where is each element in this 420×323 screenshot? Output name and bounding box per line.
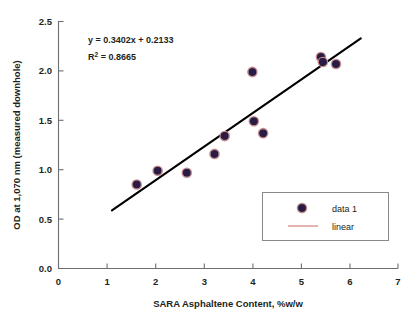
x-tick-label: 6	[347, 276, 352, 287]
x-tick-label: 3	[202, 276, 207, 287]
y-tick-label: 0.5	[39, 214, 53, 225]
x-tick-label: 4	[250, 276, 256, 287]
equation-annotation: y = 0.3402x + 0.2133	[88, 35, 174, 45]
r-squared-suffix: = 0.8665	[98, 52, 136, 62]
data-point	[220, 132, 229, 141]
data-point	[331, 59, 340, 68]
scatter-plot: 2.5 2.0 1.5 1.0 0.5 0.0 0 1 2 3 4 5 6	[0, 0, 420, 323]
figure-bottom-margin	[0, 311, 420, 323]
y-tick-label: 1.0	[39, 164, 52, 175]
chart-legend: data 1 linear	[263, 193, 389, 241]
data-point	[248, 67, 257, 76]
legend-box	[263, 193, 389, 241]
legend-marker-circle	[298, 204, 306, 212]
data-point	[182, 168, 191, 177]
x-tick-label: 7	[395, 276, 400, 287]
x-axis-title: SARA Asphaltene Content, %w/w	[153, 298, 303, 309]
legend-label-data-1: data 1	[332, 204, 357, 214]
y-tick-label: 0.0	[39, 263, 52, 274]
y-axis-title: OD at 1,070 nm (measured downhole)	[11, 60, 22, 229]
x-tick-label: 2	[153, 276, 158, 287]
y-tick-label: 2.0	[39, 65, 52, 76]
y-axis-tick-labels: 2.5 2.0 1.5 1.0 0.5 0.0	[39, 16, 53, 274]
y-tick-label: 1.5	[39, 115, 53, 126]
y-tick-label: 2.5	[39, 16, 53, 27]
x-tick-label: 1	[104, 276, 110, 287]
data-point	[132, 180, 141, 189]
chart-figure: 2.5 2.0 1.5 1.0 0.5 0.0 0 1 2 3 4 5 6	[0, 0, 420, 323]
data-point	[249, 117, 258, 126]
data-point	[210, 149, 219, 158]
data-point	[259, 129, 268, 138]
x-axis-tick-labels: 0 1 2 3 4 5 6 7	[56, 276, 401, 287]
data-point	[153, 166, 162, 175]
x-tick-label: 5	[299, 276, 305, 287]
legend-label-linear: linear	[332, 222, 354, 232]
data-point	[318, 57, 327, 66]
x-tick-label: 0	[56, 276, 61, 287]
